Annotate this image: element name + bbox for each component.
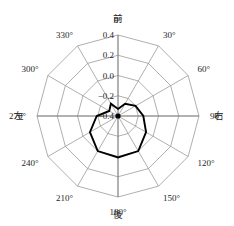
direction-label-right: 右 xyxy=(214,110,224,121)
radial-label-0p4: 0.4 xyxy=(103,30,115,40)
angular-label-210: 210° xyxy=(56,193,74,203)
angular-label-240: 240° xyxy=(21,158,39,168)
spoke-60 xyxy=(118,76,188,117)
angular-label-330: 330° xyxy=(56,30,74,40)
radial-label-0p2: 0.2 xyxy=(103,50,114,60)
spoke-120 xyxy=(118,116,188,157)
angular-label-120: 120° xyxy=(197,158,215,168)
polar-chart-container: 0°30°60°90°120°150°180°210°240°270°300°3… xyxy=(0,0,234,226)
angular-label-30: 30° xyxy=(163,30,176,40)
direction-label-left: 左 xyxy=(14,110,24,121)
angular-label-150: 150° xyxy=(163,193,181,203)
angular-label-300: 300° xyxy=(21,64,39,74)
angular-label-60: 60° xyxy=(197,64,210,74)
direction-label-rear: 後 xyxy=(113,209,123,220)
direction-label-front: 前 xyxy=(113,13,123,24)
radial-label-neg0p4: −0.4 xyxy=(98,111,115,121)
center-origin-dot xyxy=(115,113,120,118)
radial-label-0: 0.0 xyxy=(103,71,115,81)
spoke-240 xyxy=(48,116,118,157)
radial-label-neg0p2: −0.2 xyxy=(98,91,114,101)
polar-chart-svg: 0°30°60°90°120°150°180°210°240°270°300°3… xyxy=(0,0,234,226)
